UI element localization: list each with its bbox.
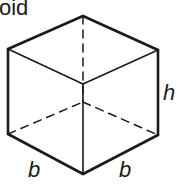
height-label: h [163,82,175,104]
edge-bottom-left [8,134,83,174]
hidden-edge-bottom-back-right [83,102,158,135]
edge-top-front-right [83,50,158,84]
edge-top-back-right [83,16,158,50]
base-left-label: b [28,159,40,181]
hidden-edge-bottom-back-left [8,102,83,134]
edge-top-back-left [8,16,83,49]
base-right-label: b [119,159,131,181]
edge-top-front-left [8,49,83,84]
cuboid-drawing [0,0,179,187]
cuboid-diagram: oid h b b [0,0,179,187]
